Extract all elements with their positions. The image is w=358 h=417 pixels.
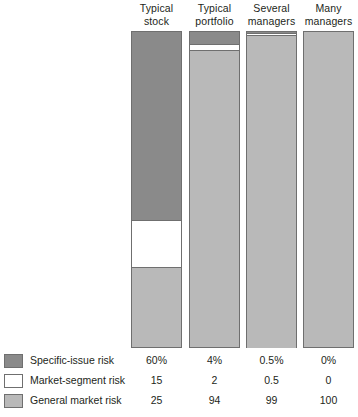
value-cell: 0.5: [244, 373, 300, 388]
stacked-bar-3[interactable]: [246, 31, 297, 348]
column-header-line1: Many: [298, 2, 358, 15]
legend-swatch-specific: [4, 354, 23, 368]
column-header-line1: Typical: [184, 2, 246, 15]
column-header-2: Typicalportfolio: [184, 2, 246, 27]
column-header-4: Manymanagers: [298, 2, 358, 27]
value-cell: 0%: [301, 353, 357, 368]
column-header-line2: stock: [126, 15, 188, 28]
column-header-line2: managers: [298, 15, 358, 28]
value-cell: 99: [244, 393, 300, 408]
value-cell: 4%: [187, 353, 243, 368]
column-headers: TypicalstockTypicalportfolioSeveralmanag…: [0, 0, 348, 31]
legend-label: Market-segment risk: [30, 373, 125, 388]
table-row: Market-segment risk1520.50: [0, 372, 348, 391]
bar-segment-general-market: [132, 268, 181, 347]
value-cell: 94: [187, 393, 243, 408]
stacked-bar-4[interactable]: [303, 31, 354, 348]
column-header-line2: portfolio: [184, 15, 246, 28]
value-cell: 0.5%: [244, 353, 300, 368]
table-row: General market risk259499100: [0, 392, 348, 411]
legend-value-table: Specific-issue risk60%4%0.5%0%Market-seg…: [0, 352, 348, 414]
value-cell: 100: [301, 393, 357, 408]
column-header-1: Typicalstock: [126, 2, 188, 27]
column-header-line1: Several: [241, 2, 303, 15]
value-cell: 0: [301, 373, 357, 388]
legend-label: General market risk: [30, 393, 122, 408]
stacked-bar-1[interactable]: [131, 31, 182, 348]
value-cell: 15: [129, 373, 185, 388]
legend-label: Specific-issue risk: [30, 353, 114, 368]
legend-swatch-general: [4, 394, 23, 408]
bars-plot-area: [0, 31, 348, 348]
stacked-bar-2[interactable]: [189, 31, 240, 348]
bar-segment-specific-issue: [190, 32, 239, 45]
column-header-line2: managers: [241, 15, 303, 28]
column-header-line1: Typical: [126, 2, 188, 15]
column-header-3: Severalmanagers: [241, 2, 303, 27]
bar-segment-specific-issue: [132, 32, 181, 221]
legend-swatch-segment: [4, 374, 23, 388]
value-cell: 25: [129, 393, 185, 408]
bar-segment-market-segment: [132, 221, 181, 268]
value-cell: 2: [187, 373, 243, 388]
value-cell: 60%: [129, 353, 185, 368]
bar-segment-general-market: [190, 51, 239, 347]
bar-segment-general-market: [247, 36, 296, 348]
table-row: Specific-issue risk60%4%0.5%0%: [0, 352, 348, 371]
bar-segment-general-market: [304, 32, 353, 347]
